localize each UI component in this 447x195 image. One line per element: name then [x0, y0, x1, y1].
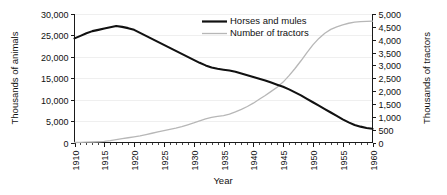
y-axis-right-tick-label: 500	[379, 126, 394, 136]
y-axis-right-tick-label: 4,000	[379, 36, 402, 46]
x-axis-tick-label: 1945	[279, 151, 289, 171]
x-axis-tick-label: 1960	[369, 151, 379, 171]
y-axis-left: 05,00010,00015,00020,00025,00030,000	[41, 10, 75, 149]
x-axis-tick-label: 1940	[249, 151, 259, 171]
x-axis-tick-label: 1930	[190, 151, 200, 171]
y-axis-right-tick-label: 2,500	[379, 74, 402, 84]
y-axis-left-tick-label: 30,000	[41, 10, 69, 20]
y-axis-right-tick-label: 5,000	[379, 10, 402, 20]
y-axis-left-title: Thousands of animals	[9, 31, 20, 124]
y-axis-right-tick-label: 3,500	[379, 49, 402, 59]
x-axis-title: Year	[213, 175, 232, 186]
chart-canvas: 05,00010,00015,00020,00025,00030,000 050…	[0, 0, 447, 195]
y-axis-left-tick-label: 10,000	[41, 96, 69, 106]
y-axis-right-title: Thousands of tractors	[421, 32, 432, 124]
gridlines	[75, 15, 373, 122]
x-axis-tick-label: 1950	[309, 151, 319, 171]
y-axis-left-tick-label: 25,000	[41, 31, 69, 41]
chart-legend: Horses and mules Number of tractors	[202, 15, 309, 38]
y-axis-right: 05001,0001,5002,0002,5003,0003,5004,0004…	[373, 10, 402, 149]
y-axis-left-tick-label: 5,000	[46, 117, 69, 127]
legend-label-horses-and-mules: Horses and mules	[230, 15, 307, 26]
y-axis-left-tick-label: 20,000	[41, 53, 69, 63]
y-axis-right-tick-label: 1,000	[379, 113, 402, 123]
y-axis-right-tick-label: 0	[379, 139, 384, 149]
x-axis-tick-label: 1935	[220, 151, 230, 171]
y-axis-right-tick-label: 2,000	[379, 87, 402, 97]
y-axis-right-tick-label: 3,000	[379, 61, 402, 71]
x-axis-tick-label: 1910	[71, 151, 81, 171]
y-axis-left-tick-label: 15,000	[41, 74, 69, 84]
x-axis-tick-label: 1920	[130, 151, 140, 171]
x-axis-tick-label: 1915	[100, 151, 110, 171]
x-axis-tick-label: 1955	[339, 151, 349, 171]
legend-label-number-of-tractors: Number of tractors	[230, 27, 309, 38]
y-axis-right-tick-label: 4,500	[379, 23, 402, 33]
y-axis-left-tick-label: 0	[63, 139, 68, 149]
series-line-horses-and-mules	[75, 26, 373, 129]
x-axis: 1910191519201925193019351940194519501955…	[71, 143, 379, 171]
series-line-number-of-tractors	[75, 21, 373, 142]
chart-figure: 05,00010,00015,00020,00025,00030,000 050…	[0, 0, 447, 195]
x-axis-tick-label: 1925	[160, 151, 170, 171]
data-series-group	[75, 21, 373, 142]
y-axis-right-tick-label: 1,500	[379, 100, 402, 110]
